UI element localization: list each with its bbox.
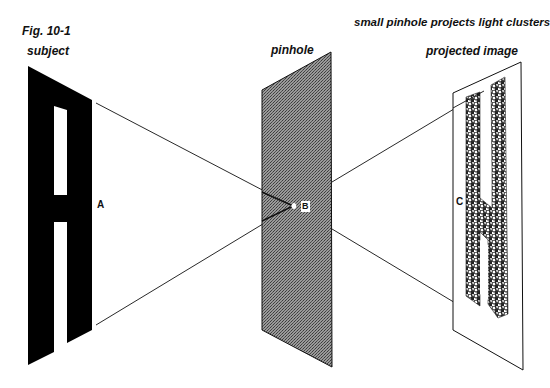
- subject-title: subject: [27, 44, 69, 58]
- projection-screen: [453, 62, 523, 370]
- figure-caption: small pinhole projects light clusters: [354, 16, 550, 28]
- subject-letter-shape: [28, 66, 92, 365]
- point-a-label: A: [97, 199, 104, 210]
- point-c-label: C: [456, 196, 463, 207]
- projected-image-title: projected image: [426, 44, 518, 58]
- point-b-label: B: [301, 201, 310, 212]
- pinhole-plane: [262, 52, 332, 367]
- pinhole-title: pinhole: [271, 43, 314, 57]
- pinhole-aperture: [292, 203, 296, 209]
- figure-number: Fig. 10-1: [22, 24, 71, 38]
